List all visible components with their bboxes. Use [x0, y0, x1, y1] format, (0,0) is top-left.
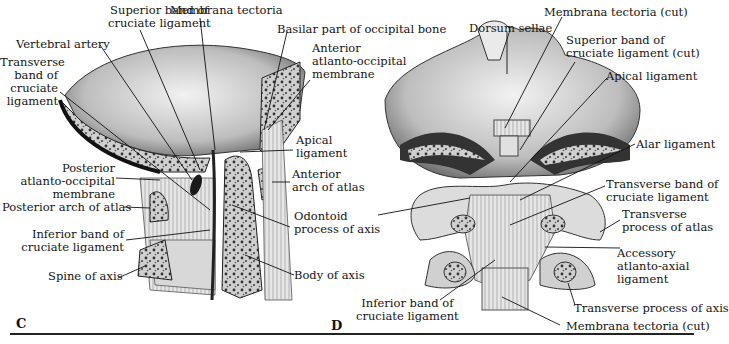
label-c-basilar-part: Basilar part of occipital bone — [277, 23, 446, 36]
label-line: cruciate ligament — [108, 17, 211, 30]
label-c-anterior-arch-atlas: Anterior arch of atlas — [292, 168, 365, 194]
label-line: membrane — [312, 68, 407, 81]
label-d-inferior-band: Inferior band of cruciate ligament — [356, 297, 459, 323]
label-line: cruciate ligament — [356, 310, 459, 323]
label-line: arch of atlas — [292, 181, 365, 194]
label-c-posterior-atlanto-occipital: Posterior atlanto-occipital membrane — [0, 162, 115, 201]
label-d-superior-band-cut: Superior band of cruciate ligament (cut) — [566, 34, 700, 60]
label-line: ligament — [0, 95, 58, 108]
label-d-transverse-process-axis: Transverse process of axis — [574, 302, 729, 315]
label-c-odontoid-process: Odontoid process of axis — [294, 210, 380, 236]
label-d-dorsum-sellae: Dorsum sellae — [469, 22, 552, 35]
label-line: process of axis — [294, 223, 380, 236]
panel-d-illustration — [385, 21, 640, 310]
label-d-transverse-band: Transverse band of cruciate ligament — [606, 178, 718, 204]
panel-letter-d: D — [331, 318, 342, 333]
label-c-vertebral-artery: Vertebral artery — [16, 38, 110, 51]
label-d-accessory-atlanto-axial: Accessory atlanto-axial ligament — [617, 247, 689, 286]
label-c-membrana-tectoria: Membrana tectoria — [170, 4, 283, 17]
bottom-divider — [10, 333, 694, 335]
label-line: cruciate ligament — [606, 191, 718, 204]
label-d-alar-ligament: Alar ligament — [636, 138, 715, 151]
label-line: ligament — [296, 147, 347, 160]
label-line: cruciate ligament (cut) — [566, 47, 700, 60]
label-c-spine-of-axis: Spine of axis — [48, 270, 123, 283]
label-c-transverse-band: Transverse band of cruciate ligament — [0, 56, 58, 108]
label-d-membrana-tectoria-cut-top: Membrana tectoria (cut) — [544, 6, 688, 19]
label-d-membrana-tectoria-cut-bottom: Membrana tectoria (cut) — [566, 320, 710, 333]
label-c-apical-ligament: Apical ligament — [296, 134, 347, 160]
label-line: cruciate ligament — [0, 241, 124, 254]
label-c-inferior-band: Inferior band of cruciate ligament — [0, 228, 124, 254]
label-d-apical-ligament: Apical ligament — [606, 70, 697, 83]
label-c-posterior-arch-atlas: Posterior arch of atlas — [2, 201, 131, 214]
label-line: ligament — [617, 273, 689, 286]
label-d-transverse-process-atlas: Transverse process of atlas — [622, 208, 713, 234]
label-c-body-of-axis: Body of axis — [294, 269, 365, 282]
label-line: process of atlas — [622, 221, 713, 234]
label-c-anterior-atlanto-occipital: Anterior atlanto-occipital membrane — [312, 42, 407, 81]
panel-letter-c: C — [16, 316, 26, 331]
